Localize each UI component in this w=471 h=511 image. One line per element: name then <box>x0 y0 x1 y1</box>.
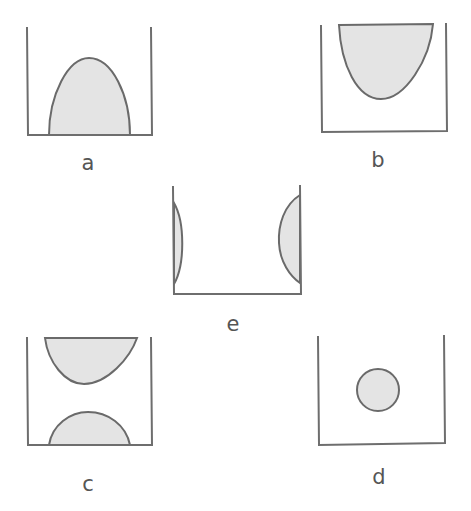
dome-blob <box>49 58 130 135</box>
floating-circle-blob <box>357 369 399 411</box>
label-c: c <box>82 474 94 495</box>
panel-e <box>173 186 301 294</box>
label-d: d <box>372 467 385 488</box>
label-e: e <box>227 314 240 335</box>
label-a: a <box>82 153 95 174</box>
panel-d <box>318 336 445 445</box>
panel-a <box>27 28 152 135</box>
label-b: b <box>371 150 384 171</box>
right-lens-blob <box>279 195 300 283</box>
bottom-dome-blob <box>49 412 130 445</box>
left-lens-blob <box>174 203 182 284</box>
diagram-canvas <box>0 0 471 511</box>
hanging-bowl-blob <box>339 24 433 99</box>
panel-c <box>27 338 152 445</box>
top-bowl-blob <box>45 338 137 384</box>
panel-b <box>321 24 447 132</box>
